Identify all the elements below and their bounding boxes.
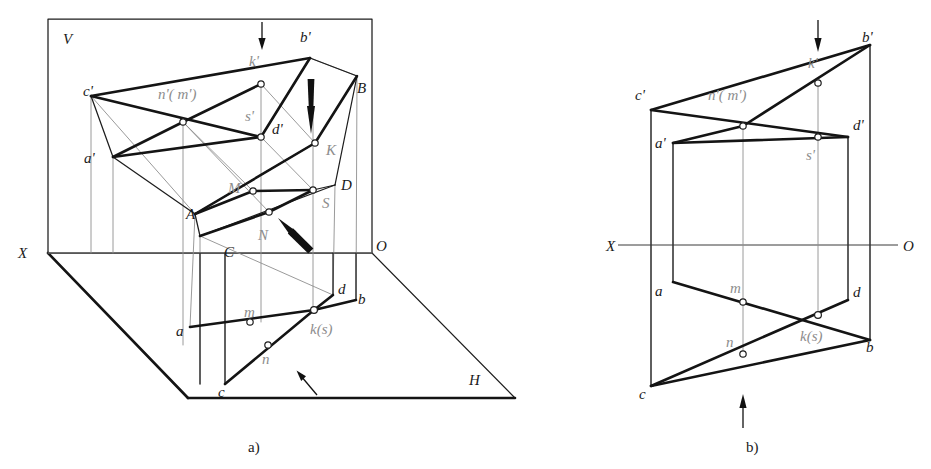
caption-a: a)	[248, 439, 260, 456]
label-d-h-a: d	[338, 281, 346, 297]
label-ks-h-a: k(s)	[310, 321, 333, 338]
arrow-dart-to-n-a	[278, 218, 313, 254]
label-c-prime-a: c'	[83, 83, 94, 99]
arrow-up-bottom-a	[297, 371, 318, 396]
label-k-prime-a: k'	[249, 53, 260, 69]
label-point-M: M	[227, 180, 242, 196]
label-plane-v: V	[63, 31, 74, 47]
v-plane-outline	[48, 19, 372, 253]
label-a-h-b: a	[655, 283, 663, 299]
label-point-K: K	[325, 142, 337, 158]
label-b-prime-a: b'	[300, 29, 312, 45]
label-n-h-b: n	[726, 334, 734, 350]
label-b-prime-b: b'	[862, 29, 874, 45]
horizontal-projection-triangles-b	[651, 282, 870, 386]
label-point-D: D	[340, 177, 352, 193]
label-c-h-b: c	[639, 386, 646, 402]
label-d-h-b: d	[853, 284, 861, 300]
label-point-S: S	[322, 195, 330, 211]
label-d-prime-a: d'	[272, 121, 284, 137]
frontal-projection-triangles-a	[91, 58, 310, 157]
label-axis-x-a: X	[17, 245, 28, 261]
technical-drawing-svg: V H X O c' a' n'( m') k' b' s' d' B K D …	[0, 0, 931, 469]
label-b-h-b: b	[866, 339, 874, 355]
arrow-down-top-b	[814, 20, 821, 52]
label-nm-prime-b: n'( m')	[708, 87, 747, 104]
label-nm-prime-a: n'( m')	[158, 86, 197, 103]
label-point-A: A	[185, 206, 196, 222]
caption-b: b)	[746, 439, 759, 456]
label-s-prime-b: s'	[806, 147, 816, 163]
figure-canvas: V H X O c' a' n'( m') k' b' s' d' B K D …	[0, 0, 931, 469]
label-ks-h-b: k(s)	[800, 328, 823, 345]
label-axis-o-a: O	[376, 238, 387, 254]
label-s-prime-a: s'	[245, 108, 255, 124]
connector-edges-b	[651, 45, 870, 386]
label-d-prime-b: d'	[853, 117, 865, 133]
label-plane-h: H	[468, 372, 481, 388]
label-point-B: B	[357, 80, 366, 96]
arrow-down-top-a	[258, 22, 265, 50]
frontal-projection-triangles-b	[651, 45, 870, 143]
label-a-prime-a: a'	[84, 150, 96, 166]
label-n-h-a: n	[262, 351, 270, 367]
arrow-dart-down-a	[307, 79, 315, 134]
label-a-h-a: a	[176, 323, 184, 339]
label-b-h-a: b	[358, 291, 366, 307]
horizontal-projection-triangles-a	[190, 295, 356, 384]
label-m-h-a: m	[244, 304, 255, 320]
label-point-C: C	[224, 244, 235, 260]
label-axis-x-b: X	[605, 238, 616, 254]
label-k-prime-b: k'	[808, 55, 819, 71]
diagram-b: X O c' n'( m') k' b' a' d' s' a m n k(s)…	[605, 29, 914, 402]
diagram-a: V H X O c' a' n'( m') k' b' s' d' B K D …	[17, 19, 515, 400]
label-c-h-a: c	[218, 384, 225, 400]
projection-lines-b	[651, 45, 870, 386]
label-point-N: N	[257, 227, 269, 243]
label-m-h-b: m	[730, 280, 741, 296]
label-a-prime-b: a'	[655, 135, 667, 151]
label-axis-o-b: O	[903, 238, 914, 254]
arrow-up-bottom-b	[739, 394, 746, 428]
label-c-prime-b: c'	[635, 87, 646, 103]
h-plane-edges	[48, 253, 515, 398]
